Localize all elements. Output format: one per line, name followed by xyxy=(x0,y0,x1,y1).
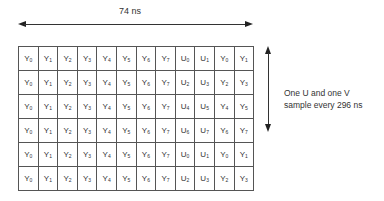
grid-cell: Y4 xyxy=(214,95,234,119)
cell-index: 0 xyxy=(30,177,33,183)
cell-index: 3 xyxy=(88,177,91,183)
cell-index: 4 xyxy=(226,105,229,111)
cell-index: 7 xyxy=(167,105,170,111)
cell-index: 1 xyxy=(245,153,248,159)
grid-cell: U0 xyxy=(175,47,195,71)
grid-cell: Y2 xyxy=(58,71,78,95)
cell-index: 4 xyxy=(187,105,190,111)
cell-index: 2 xyxy=(69,153,72,159)
grid-cell: Y5 xyxy=(116,143,136,167)
cell-index: 2 xyxy=(226,81,229,87)
grid-cell: Y0 xyxy=(214,143,234,167)
cell-index: 1 xyxy=(49,81,52,87)
cell-index: 2 xyxy=(187,177,190,183)
grid-cell: Y1 xyxy=(38,47,58,71)
arrow-right-icon xyxy=(245,21,253,27)
grid-cell: Y5 xyxy=(234,95,254,119)
cell-index: 1 xyxy=(49,153,52,159)
cell-index: 0 xyxy=(30,129,33,135)
grid-cell: Y7 xyxy=(156,71,176,95)
cell-index: 7 xyxy=(245,129,248,135)
cell-index: 1 xyxy=(49,105,52,111)
grid-cell: Y4 xyxy=(97,95,117,119)
grid-cell: U2 xyxy=(175,167,195,191)
grid-cell: Y1 xyxy=(234,143,254,167)
grid-cell: Y5 xyxy=(116,95,136,119)
cell-index: 3 xyxy=(206,177,209,183)
grid-cell: Y2 xyxy=(58,47,78,71)
cell-index: 1 xyxy=(206,57,209,63)
grid-cell: Y3 xyxy=(77,47,97,71)
grid-cell: Y1 xyxy=(38,119,58,143)
grid-cell: Y7 xyxy=(156,167,176,191)
cell-index: 6 xyxy=(187,129,190,135)
cell-index: 0 xyxy=(187,57,190,63)
cell-index: 2 xyxy=(187,81,190,87)
cell-index: 0 xyxy=(226,57,229,63)
cell-index: 1 xyxy=(206,153,209,159)
grid-cell: Y3 xyxy=(234,167,254,191)
cell-index: 3 xyxy=(88,57,91,63)
cell-index: 3 xyxy=(245,81,248,87)
cell-index: 4 xyxy=(108,153,111,159)
grid-cell: Y4 xyxy=(97,47,117,71)
cell-index: 5 xyxy=(128,177,131,183)
horizontal-duration-label: 74 ns xyxy=(110,6,150,16)
grid-cell: Y0 xyxy=(214,47,234,71)
sample-rate-line-1: One U and one V xyxy=(284,87,362,99)
cell-index: 3 xyxy=(206,81,209,87)
cell-index: 6 xyxy=(147,129,150,135)
cell-index: 2 xyxy=(226,177,229,183)
grid-cell: Y7 xyxy=(156,47,176,71)
grid-row: Y0Y1Y2Y3Y4Y5Y6Y7U2U3Y2Y3 xyxy=(19,167,254,191)
grid-cell: Y6 xyxy=(136,119,156,143)
grid-cell: U6 xyxy=(175,119,195,143)
cell-index: 1 xyxy=(245,57,248,63)
cell-index: 6 xyxy=(147,153,150,159)
cell-index: 2 xyxy=(69,57,72,63)
grid-cell: Y4 xyxy=(97,143,117,167)
grid-cell: Y2 xyxy=(58,167,78,191)
cell-index: 4 xyxy=(108,57,111,63)
grid-cell: Y4 xyxy=(97,167,117,191)
grid-cell: Y5 xyxy=(116,71,136,95)
grid-cell: Y7 xyxy=(234,119,254,143)
grid-cell: Y0 xyxy=(19,47,39,71)
cell-index: 3 xyxy=(245,177,248,183)
grid-cell: Y0 xyxy=(19,167,39,191)
cell-index: 6 xyxy=(147,177,150,183)
cell-index: 5 xyxy=(206,105,209,111)
cell-index: 1 xyxy=(49,57,52,63)
grid-cell: Y3 xyxy=(77,119,97,143)
cell-index: 7 xyxy=(206,129,209,135)
cell-index: 6 xyxy=(147,57,150,63)
grid-cell: U3 xyxy=(195,167,215,191)
grid-cell: Y7 xyxy=(156,95,176,119)
grid-cell: Y3 xyxy=(77,71,97,95)
cell-index: 2 xyxy=(69,105,72,111)
grid-cell: Y6 xyxy=(136,95,156,119)
cell-index: 4 xyxy=(108,105,111,111)
cell-index: 0 xyxy=(30,57,33,63)
grid-cell: Y4 xyxy=(97,71,117,95)
grid-cell: Y0 xyxy=(19,95,39,119)
grid-cell: Y5 xyxy=(116,47,136,71)
grid-row: Y0Y1Y2Y3Y4Y5Y6Y7U2U3Y2Y3 xyxy=(19,71,254,95)
grid-row: Y0Y1Y2Y3Y4Y5Y6Y7U4U5Y4Y5 xyxy=(19,95,254,119)
cell-index: 6 xyxy=(147,105,150,111)
cell-index: 2 xyxy=(69,177,72,183)
arrow-down-icon xyxy=(265,124,271,132)
cell-index: 6 xyxy=(147,81,150,87)
grid-row: Y0Y1Y2Y3Y4Y5Y6Y7U0U1Y0Y1 xyxy=(19,47,254,71)
cell-index: 4 xyxy=(108,81,111,87)
grid-cell: Y1 xyxy=(38,95,58,119)
grid-cell: Y3 xyxy=(77,95,97,119)
vertical-double-arrow xyxy=(268,46,270,132)
grid-cell: Y1 xyxy=(38,71,58,95)
cell-index: 5 xyxy=(245,105,248,111)
grid-cell: U7 xyxy=(195,119,215,143)
sample-rate-line-2: sample every 296 ns xyxy=(284,99,362,111)
cell-index: 0 xyxy=(187,153,190,159)
grid-cell: Y7 xyxy=(156,119,176,143)
cell-index: 2 xyxy=(69,129,72,135)
